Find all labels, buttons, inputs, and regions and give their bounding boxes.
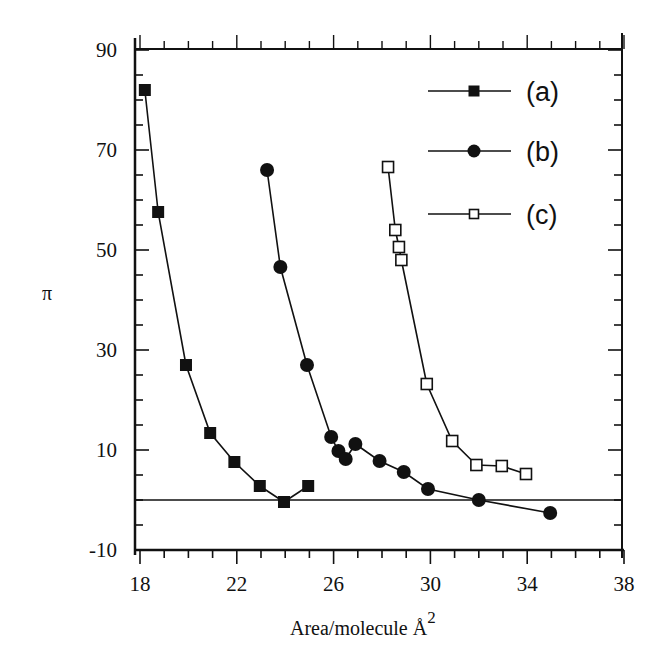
legend-item-c: (c) — [428, 200, 557, 230]
open-square-marker-icon — [496, 461, 507, 472]
filled-circle-marker-icon — [472, 493, 486, 507]
y-tick-label: 30 — [96, 338, 117, 362]
open-square-marker-icon — [447, 436, 458, 447]
x-axis-title-text: Area/molecule Å — [290, 617, 428, 639]
filled-square-marker-icon — [254, 480, 266, 492]
open-square-marker-icon — [470, 210, 479, 219]
legend: (a)(b)(c) — [428, 77, 559, 230]
filled-circle-marker-icon — [324, 430, 338, 444]
x-tick-label: 22 — [226, 572, 247, 596]
open-square-marker-icon — [390, 225, 401, 236]
series-b — [260, 163, 557, 520]
legend-item-b: (b) — [428, 137, 559, 167]
pressure-area-isotherm-chart: 1822263034389070503010-10 (a)(b)(c) π Ar… — [0, 0, 662, 663]
x-axis-title-superscript: 2 — [427, 608, 436, 627]
y-tick-label: 70 — [96, 138, 117, 162]
filled-circle-marker-icon — [421, 482, 435, 496]
filled-square-marker-icon — [302, 480, 314, 492]
x-axis-title: Area/molecule Å2 — [290, 608, 436, 639]
y-tick-label: 90 — [96, 38, 117, 62]
filled-square-marker-icon — [469, 86, 480, 97]
y-tick-label: 10 — [96, 438, 117, 462]
filled-circle-marker-icon — [300, 358, 314, 372]
filled-square-marker-icon — [152, 206, 164, 218]
filled-circle-marker-icon — [373, 454, 387, 468]
series-line — [388, 167, 526, 474]
legend-label: (b) — [526, 137, 559, 167]
filled-square-marker-icon — [139, 84, 151, 96]
open-square-marker-icon — [421, 379, 432, 390]
x-tick-label: 34 — [517, 572, 539, 596]
filled-circle-marker-icon — [468, 145, 481, 158]
axis-ticks — [135, 35, 624, 564]
x-tick-label: 18 — [130, 572, 151, 596]
filled-circle-marker-icon — [339, 452, 353, 466]
filled-circle-marker-icon — [273, 260, 287, 274]
open-square-marker-icon — [396, 255, 407, 266]
filled-circle-marker-icon — [260, 163, 274, 177]
open-square-marker-icon — [471, 460, 482, 471]
legend-item-a: (a) — [428, 77, 559, 107]
filled-square-marker-icon — [204, 427, 216, 439]
x-tick-label: 38 — [614, 572, 635, 596]
open-square-marker-icon — [393, 242, 404, 253]
filled-circle-marker-icon — [397, 465, 411, 479]
x-tick-label: 26 — [323, 572, 344, 596]
filled-square-marker-icon — [278, 496, 290, 508]
open-square-marker-icon — [383, 162, 394, 173]
plot-frame — [135, 33, 624, 558]
filled-circle-marker-icon — [543, 506, 557, 520]
legend-label: (c) — [526, 200, 557, 230]
x-tick-label: 30 — [420, 572, 441, 596]
series-c — [383, 162, 532, 480]
filled-square-marker-icon — [228, 456, 240, 468]
y-axis-title: π — [42, 282, 52, 304]
legend-label: (a) — [526, 77, 559, 107]
data-series — [139, 84, 557, 520]
open-square-marker-icon — [520, 469, 531, 480]
y-tick-label: 50 — [96, 238, 117, 262]
filled-circle-marker-icon — [348, 437, 362, 451]
y-tick-label: -10 — [89, 538, 117, 562]
series-line — [145, 90, 308, 502]
filled-square-marker-icon — [180, 359, 192, 371]
